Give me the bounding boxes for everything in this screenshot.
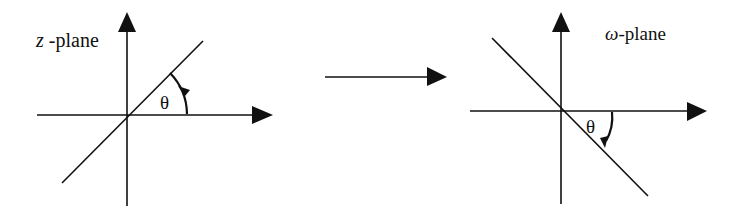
omega-plane-panel: ω-plane θ [470, 12, 707, 204]
w-real-axis-arrowhead [687, 102, 707, 121]
z-angle-arrowhead [178, 86, 190, 96]
mapping-diagram: z -plane θ ω-plane θ [0, 0, 735, 212]
z-plane-panel: z -plane θ [35, 12, 273, 206]
z-real-axis-arrowhead [252, 106, 273, 124]
mapping-arrow [325, 67, 447, 86]
z-plane-label: z -plane [35, 29, 99, 52]
w-plane-label: ω-plane [605, 23, 666, 44]
w-imag-axis-arrowhead [552, 12, 570, 32]
w-theta-label: θ [586, 116, 595, 137]
w-line [492, 38, 648, 196]
z-imag-axis-arrowhead [118, 12, 136, 32]
w-angle-arrowhead [600, 136, 608, 148]
z-line [62, 41, 203, 183]
mapping-arrow-head [427, 67, 447, 86]
z-theta-label: θ [160, 92, 169, 113]
